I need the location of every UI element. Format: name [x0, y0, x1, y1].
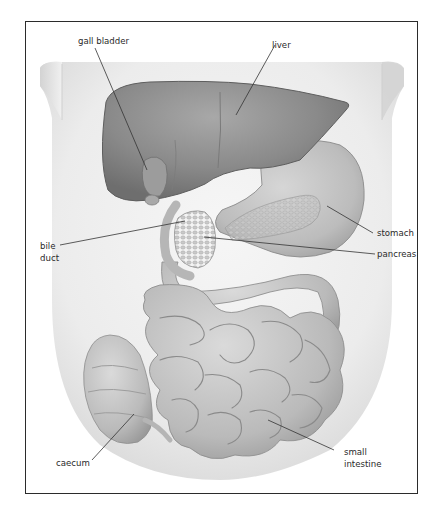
label-stomach: stomach [377, 227, 414, 239]
anatomy-illustration [0, 0, 438, 523]
label-bile-duct-line2: duct [40, 252, 59, 264]
label-small-intestine-line1: small [344, 446, 367, 458]
label-caecum: caecum [56, 457, 90, 469]
label-bile-duct-line1: bile [40, 240, 56, 252]
label-pancreas: pancreas [377, 248, 416, 260]
label-liver: liver [272, 39, 291, 51]
label-small-intestine-line2: intestine [344, 458, 381, 470]
label-gall-bladder: gall bladder [78, 35, 129, 47]
